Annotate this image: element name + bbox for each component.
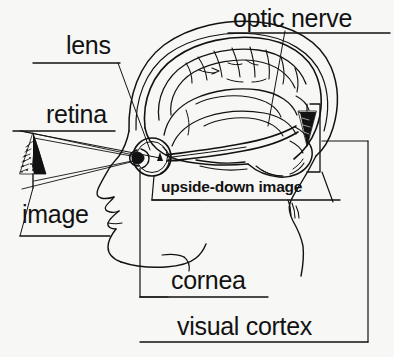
inverted-fir-tree-in-cortex [298,104,316,146]
leader-line-optic-nerve [268,31,285,126]
label-retina: retina [46,102,107,127]
label-optic-nerve: optic nerve [233,6,352,31]
label-upside-down-image: upside-down image [161,179,302,195]
label-cornea: cornea [171,268,246,293]
label-visual-cortex: visual cortex [177,314,312,339]
leader-line-retina [20,131,160,158]
optic-nerve-tract [166,126,298,161]
label-image: image [22,202,89,227]
visual-pathway-figure: lens optic nerve retina image upside-dow… [0,0,394,357]
leader-line-upside-down-image-right [322,172,333,202]
leader-line-visual-cortex [322,141,368,342]
label-lens: lens [66,33,111,58]
